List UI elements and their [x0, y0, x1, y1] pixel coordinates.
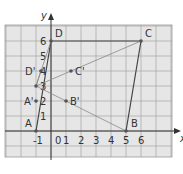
- point-C-prime: [69, 69, 73, 73]
- x-tick-label: 6: [138, 135, 144, 146]
- grid-background: [5, 25, 172, 157]
- point-B: [124, 129, 128, 133]
- x-tick-label: 1: [63, 135, 69, 146]
- point-A-prime: [34, 99, 38, 103]
- point-D: [49, 39, 53, 43]
- x-axis-label: x: [179, 133, 183, 144]
- point-A: [34, 129, 38, 133]
- point-B-prime: [64, 99, 68, 103]
- point-label: A: [25, 118, 32, 129]
- point-D-prime: [39, 69, 43, 73]
- x-tick-label: 3: [93, 135, 99, 146]
- coordinate-diagram: xy-10123456123456ABCDA'B'C'D': [0, 0, 183, 174]
- y-axis-label: y: [40, 10, 48, 21]
- point-C: [139, 39, 143, 43]
- y-axis-arrow-icon: [48, 13, 54, 20]
- point-label: D: [55, 28, 63, 39]
- x-tick-label: 0: [55, 135, 61, 146]
- x-tick-label: 2: [78, 135, 84, 146]
- point-label: C: [145, 28, 152, 39]
- point-label: D': [25, 66, 35, 77]
- point-label: B: [131, 118, 138, 129]
- x-tick-label: 5: [123, 135, 129, 146]
- y-tick-label: 1: [40, 111, 46, 122]
- point-label: B': [70, 96, 80, 107]
- x-tick-label: -1: [33, 135, 43, 146]
- point-center: [34, 84, 38, 88]
- point-label: A': [24, 96, 34, 107]
- y-tick-label: 6: [40, 36, 46, 47]
- x-tick-label: 4: [108, 135, 114, 146]
- point-label: C': [75, 66, 85, 77]
